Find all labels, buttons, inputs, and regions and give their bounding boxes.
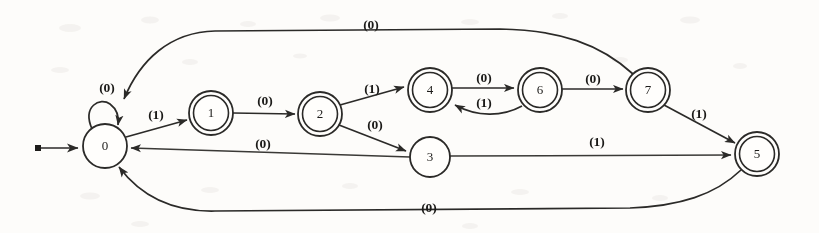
edge-label-0-0: (0)	[99, 80, 115, 95]
state-node-7[interactable]: 7	[626, 68, 670, 112]
automaton-canvas: (0) (1) (0) (1) (0) (0) (1) (0) (1) (0) …	[0, 0, 819, 233]
state-label-3: 3	[427, 149, 434, 164]
edge-label-3-0: (0)	[255, 136, 271, 151]
edge-label-0-1: (1)	[148, 107, 164, 122]
edge-label-1-2: (0)	[257, 93, 273, 108]
state-label-4: 4	[427, 82, 434, 97]
edge-label-6-7: (0)	[585, 71, 601, 86]
edge-0-to-1	[126, 120, 187, 137]
state-node-0[interactable]: 0	[83, 124, 127, 168]
edge-3-to-5	[450, 155, 731, 156]
edge-label-2-3: (0)	[367, 117, 383, 132]
start-dot	[35, 145, 41, 151]
state-label-6: 6	[537, 82, 544, 97]
state-node-1[interactable]: 1	[189, 91, 233, 135]
state-node-2[interactable]: 2	[298, 92, 342, 136]
edge-label-7-0: (0)	[363, 17, 379, 32]
edge-label-2-4: (1)	[364, 81, 380, 96]
edge-label-3-5: (1)	[589, 134, 605, 149]
state-node-4[interactable]: 4	[408, 68, 452, 112]
state-node-3[interactable]: 3	[410, 137, 450, 177]
start-marker	[35, 145, 78, 151]
edge-label-6-4: (1)	[476, 95, 492, 110]
state-label-5: 5	[754, 146, 761, 161]
automaton-diagram: (0) (1) (0) (1) (0) (0) (1) (0) (1) (0) …	[0, 0, 819, 233]
edge-label-4-6: (0)	[476, 70, 492, 85]
state-label-7: 7	[645, 82, 652, 97]
state-label-0: 0	[102, 138, 109, 153]
edge-label-7-5: (1)	[691, 106, 707, 121]
edge-label-5-0: (0)	[421, 200, 437, 215]
state-label-1: 1	[208, 105, 215, 120]
state-label-2: 2	[317, 106, 324, 121]
state-node-6[interactable]: 6	[518, 68, 562, 112]
state-node-5[interactable]: 5	[735, 132, 779, 176]
edge-1-to-2	[233, 113, 295, 114]
